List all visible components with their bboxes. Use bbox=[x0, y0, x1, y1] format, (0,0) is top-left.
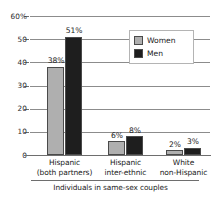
legend-swatch-women bbox=[134, 36, 143, 45]
bar-label-men-1: 8% bbox=[120, 127, 150, 135]
legend-label-men: Men bbox=[147, 50, 163, 58]
x-axis-baseline bbox=[24, 155, 211, 156]
category-label-line1: White bbox=[173, 158, 194, 167]
bar-men-0 bbox=[65, 37, 82, 155]
chart-legend: Women Men bbox=[129, 30, 194, 64]
bar-chart: 0102030405060%38%51%6%8%2%3% Women Men I… bbox=[0, 0, 221, 200]
legend-item-men: Men bbox=[134, 47, 193, 60]
y-tick-label-30: 30 bbox=[0, 82, 27, 89]
y-tick-label-40: 40 bbox=[0, 59, 27, 66]
legend-label-women: Women bbox=[147, 37, 176, 45]
y-tick-label-20: 20 bbox=[0, 105, 27, 112]
x-axis-title-rule bbox=[31, 180, 199, 181]
bar-men-2 bbox=[184, 148, 201, 155]
category-label-2: Whitenon-Hispanic bbox=[148, 158, 220, 177]
y-tick-label-0: 0 bbox=[0, 152, 27, 159]
y-tick-label-50: 50 bbox=[0, 36, 27, 43]
bar-label-men-2: 3% bbox=[178, 138, 208, 146]
legend-item-women: Women bbox=[134, 34, 193, 47]
category-label-line1: Hispanic bbox=[110, 158, 141, 167]
bar-group-0: 38%51% bbox=[47, 16, 82, 155]
y-tick-label-10: 10 bbox=[0, 128, 27, 135]
bar-women-0 bbox=[47, 67, 64, 155]
bar-men-1 bbox=[126, 136, 143, 155]
category-label-line2: non-Hispanic bbox=[148, 168, 220, 178]
legend-swatch-men bbox=[134, 49, 143, 58]
x-axis-title: Individuals in same-sex couples bbox=[0, 184, 221, 191]
bar-women-1 bbox=[108, 141, 125, 155]
category-label-line1: Hispanic bbox=[49, 158, 80, 167]
y-tick-label-60: 60% bbox=[0, 13, 27, 20]
bar-label-men-0: 51% bbox=[59, 27, 89, 35]
